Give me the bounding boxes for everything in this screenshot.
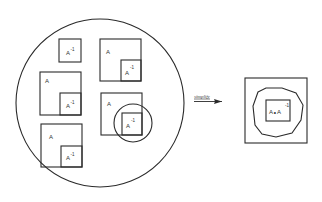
pair-box-3: A A -1	[100, 39, 141, 81]
pair-box-1: A A -1	[40, 72, 81, 115]
result-sup: -1	[285, 103, 289, 108]
arrow-label: simplify	[194, 94, 211, 99]
simplify-arrow: simplify	[194, 94, 222, 104]
inverse-alone-box: A -1	[59, 39, 81, 62]
outer-label: A	[49, 134, 53, 140]
result-label: A∘A	[269, 109, 281, 115]
outer-label: A	[45, 78, 49, 84]
inner-label: A	[125, 70, 129, 76]
inner-sup: -1	[71, 152, 75, 157]
inner-sup: -1	[131, 118, 135, 123]
arrowhead-icon	[214, 99, 222, 104]
outer-label: A	[107, 101, 111, 107]
inner-label: A	[66, 103, 70, 109]
result-box: A∘A -1	[245, 78, 307, 143]
inverse-alone-sup: -1	[71, 47, 75, 52]
pair-box-2: A A -1	[41, 124, 82, 167]
inner-label: A	[66, 155, 70, 161]
inner-label: A	[126, 123, 130, 129]
highlight-circle	[114, 104, 152, 142]
diagram-canvas: A -1 A A -1 A A -1 A A -1 A A -1 simplif…	[0, 0, 322, 202]
pair-box-4-highlighted: A A -1	[101, 93, 152, 142]
inverse-alone-label: A	[66, 50, 70, 56]
outer-label: A	[106, 49, 110, 55]
inner-sup: -1	[71, 100, 75, 105]
inner-sup: -1	[130, 65, 134, 70]
